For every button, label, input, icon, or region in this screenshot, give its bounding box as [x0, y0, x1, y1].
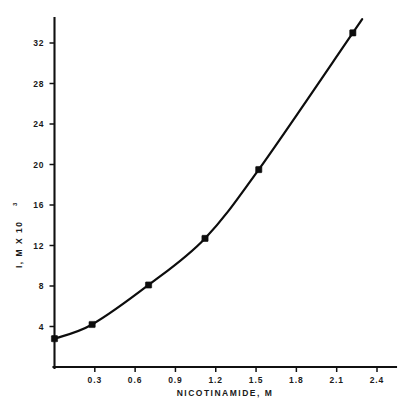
y-axis-title-exponent: 3: [12, 202, 18, 206]
data-point: [202, 235, 208, 241]
x-tick-label: 2.1: [329, 375, 344, 385]
data-point: [51, 336, 57, 342]
x-tick-label: 2.4: [370, 375, 385, 385]
y-axis-ticks: 48121620242832: [33, 38, 54, 332]
y-axis-title: I, M X 10: [14, 220, 24, 268]
y-tick-label: 8: [39, 281, 45, 291]
y-tick-label: 4: [39, 322, 45, 332]
y-tick-label: 20: [33, 160, 44, 170]
data-markers: [51, 30, 356, 342]
x-tick-label: 0.3: [88, 375, 103, 385]
y-tick-label: 28: [33, 79, 44, 89]
x-tick-label: 1.2: [208, 375, 223, 385]
x-axis-title: NICOTINAMIDE, M: [177, 388, 274, 398]
x-tick-label: 1.8: [289, 375, 304, 385]
x-axis-ticks: 0.30.60.91.21.51.82.12.4: [88, 367, 385, 385]
y-tick-label: 32: [33, 38, 44, 48]
x-tick-label: 1.5: [249, 375, 264, 385]
line-chart: 48121620242832 0.30.60.91.21.51.82.12.4 …: [0, 0, 411, 407]
y-tick-label: 16: [33, 200, 44, 210]
chart-figure: 48121620242832 0.30.60.91.21.51.82.12.4 …: [0, 0, 411, 407]
data-point: [256, 166, 262, 172]
y-tick-label: 24: [33, 119, 44, 129]
x-tick-label: 0.6: [128, 375, 143, 385]
y-tick-label: 12: [33, 241, 44, 251]
data-curve: [55, 19, 363, 338]
data-point: [350, 30, 356, 36]
x-tick-label: 0.9: [168, 375, 183, 385]
data-point: [89, 321, 95, 327]
data-point: [145, 282, 151, 288]
y-axis-title-group: I, M X 10 3: [12, 202, 24, 268]
